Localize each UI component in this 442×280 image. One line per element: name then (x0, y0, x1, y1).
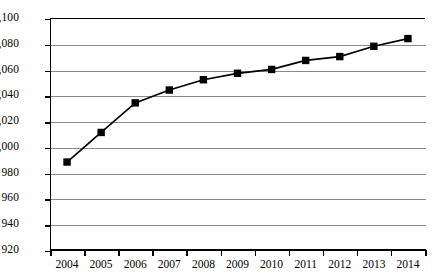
series-line (67, 39, 408, 162)
data-point (404, 35, 411, 42)
data-point (132, 99, 139, 106)
data-point (200, 76, 207, 83)
data-point (302, 57, 309, 64)
data-point (268, 66, 275, 73)
data-point (63, 158, 70, 165)
line-chart: 1,100 1,080 1,060 1,040 1,020 1,000 980 … (0, 0, 442, 280)
series-markers (63, 35, 411, 166)
data-point (166, 86, 173, 93)
data-point (234, 70, 241, 77)
data-point (370, 43, 377, 50)
data-point (97, 129, 104, 136)
data-series (0, 0, 442, 280)
data-point (336, 53, 343, 60)
